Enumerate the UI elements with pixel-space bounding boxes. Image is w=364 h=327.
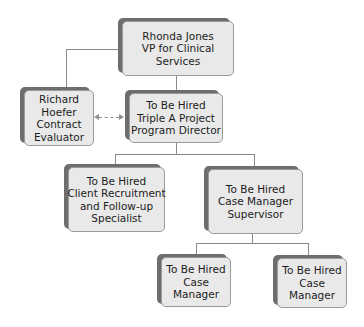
node-line: To Be Hired	[146, 99, 205, 112]
node-case-manager-1: To Be Hired Case Manager	[161, 257, 231, 307]
node-line: Case	[299, 277, 325, 290]
connector-vp-evaluator-v	[66, 49, 67, 89]
node-program-director: To Be Hired Triple A Project Program Dir…	[129, 93, 223, 143]
arrowhead-right-icon	[119, 114, 124, 120]
node-case-manager-supervisor: To Be Hired Case Manager Supervisor	[208, 169, 303, 234]
node-line: Contract	[36, 118, 81, 131]
connector-vp-evaluator-h	[66, 49, 121, 50]
node-line: Rhonda Jones	[142, 30, 214, 43]
connector-director-down	[176, 143, 177, 154]
connector-to-cm2	[308, 243, 309, 257]
node-line: Manager	[289, 289, 335, 302]
node-line: To Be Hired	[87, 175, 146, 188]
node-line: Program Director	[131, 124, 221, 137]
node-line: To Be Hired	[226, 183, 285, 196]
node-line: Hoefer	[41, 106, 76, 119]
connector-vp-director	[176, 76, 177, 91]
connector-to-cm1	[196, 243, 197, 256]
node-line: Evaluator	[34, 131, 84, 144]
node-case-manager-2: To Be Hired Case Manager	[277, 258, 347, 308]
node-line: Richard	[39, 93, 79, 106]
node-line: Specialist	[91, 212, 141, 225]
connector-row3-h	[196, 243, 308, 244]
node-line: Manager	[173, 288, 219, 301]
node-line: Case Manager	[218, 195, 293, 208]
node-line: VP for Clinical	[142, 42, 215, 55]
node-line: Client Recruitment	[67, 187, 165, 200]
node-line: Supervisor	[227, 208, 283, 221]
node-line: and Follow-up	[80, 200, 153, 213]
node-line: Case	[183, 276, 209, 289]
node-recruitment-specialist: To Be Hired Client Recruitment and Follo…	[68, 167, 165, 232]
node-line: To Be Hired	[166, 263, 225, 276]
node-vp-clinical-services: Rhonda Jones VP for Clinical Services	[122, 21, 234, 76]
node-line: Triple A Project	[137, 112, 215, 125]
dashed-relation-line	[99, 117, 119, 118]
node-line: To Be Hired	[282, 264, 341, 277]
connector-to-supervisor	[254, 154, 255, 168]
connector-row2-h	[115, 154, 254, 155]
node-line: Services	[156, 55, 200, 68]
node-contract-evaluator: Richard Hoefer Contract Evaluator	[24, 90, 94, 146]
connector-to-specialist	[115, 154, 116, 166]
org-chart: Rhonda Jones VP for Clinical Services Ri…	[0, 0, 364, 327]
